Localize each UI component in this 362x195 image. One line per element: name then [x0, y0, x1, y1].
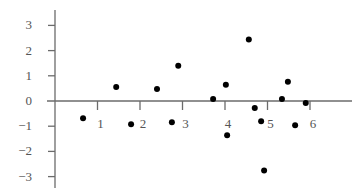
data-point [169, 119, 175, 125]
data-point [252, 105, 258, 111]
x-tick-label: 6 [310, 116, 317, 131]
data-point [113, 84, 119, 90]
x-tick-label: 4 [225, 116, 232, 131]
y-tick-label: 0 [26, 93, 33, 108]
data-point [80, 115, 86, 121]
data-point [261, 168, 267, 174]
y-tick-label: 2 [26, 43, 33, 58]
axes [47, 10, 352, 188]
data-point [128, 121, 134, 127]
data-point [154, 86, 160, 92]
x-tick-label: 3 [182, 116, 189, 131]
data-point [224, 132, 230, 138]
y-tick-label: 3 [26, 17, 33, 32]
data-points [80, 37, 309, 174]
y-tick-label: 1 [26, 68, 33, 83]
x-tick-label: 5 [267, 116, 274, 131]
data-point [292, 122, 298, 128]
x-tick-label: 1 [97, 116, 104, 131]
x-tick-label: 2 [140, 116, 147, 131]
scatter-plot: 3210−1−2−3 123456 [0, 0, 362, 195]
data-point [279, 96, 285, 102]
y-tick-label: −2 [18, 143, 32, 158]
data-point [223, 82, 229, 88]
data-point [303, 100, 309, 106]
data-point [285, 79, 291, 85]
data-point [258, 118, 264, 124]
y-tick-label: −3 [18, 169, 32, 184]
data-point [175, 63, 181, 69]
data-point [246, 37, 252, 43]
y-tick-label: −1 [18, 118, 32, 133]
data-point [210, 96, 216, 102]
